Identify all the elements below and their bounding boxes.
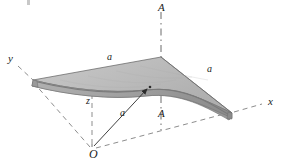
y-axis-dash bbox=[18, 66, 33, 80]
x-axis-dash bbox=[234, 104, 262, 112]
dimension-label-a-right: a bbox=[207, 64, 212, 74]
surface-point-marker bbox=[149, 86, 152, 89]
axis-label-y: y bbox=[8, 53, 13, 64]
diagram-svg bbox=[0, 0, 283, 166]
axis-label-x: x bbox=[268, 96, 273, 107]
origin-label: O bbox=[89, 148, 98, 160]
shell-right-tip-facet bbox=[227, 112, 232, 119]
dimension-label-a-rise: a bbox=[120, 108, 125, 118]
axis-label-z: z bbox=[86, 96, 90, 106]
shell-left-tip-facet bbox=[32, 80, 38, 87]
figure-canvas: y x z O A A a a a bbox=[0, 0, 283, 166]
section-label-A-bottom: A bbox=[158, 108, 165, 119]
section-label-A-top: A bbox=[158, 2, 165, 13]
dimension-label-a-left: a bbox=[107, 52, 112, 62]
